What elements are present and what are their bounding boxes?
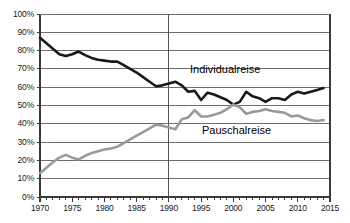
x-tick-label: 1975	[55, 203, 89, 213]
x-tick-label: 2000	[216, 203, 250, 213]
x-tick-label: 1980	[87, 203, 121, 213]
axis-ticks	[37, 14, 331, 202]
y-tick-label: 60%	[0, 82, 34, 92]
y-tick-label: 80%	[0, 45, 34, 55]
y-tick-label: 10%	[0, 173, 34, 183]
line-chart: 0%10%20%30%40%50%60%70%80%90%100% 197019…	[0, 0, 350, 223]
x-tick-label: 1990	[152, 203, 186, 213]
x-tick-label: 2010	[281, 203, 315, 213]
y-tick-label: 40%	[0, 118, 34, 128]
y-tick-label: 50%	[0, 100, 34, 110]
series-label-individualreise: Individualreise	[190, 63, 260, 75]
x-tick-label: 1995	[184, 203, 218, 213]
y-tick-label: 30%	[0, 137, 34, 147]
y-tick-label: 20%	[0, 155, 34, 165]
y-tick-label: 0%	[0, 192, 34, 202]
y-tick-label: 70%	[0, 63, 34, 73]
x-tick-label: 2015	[313, 203, 347, 213]
x-tick-label: 2005	[249, 203, 283, 213]
y-tick-label: 100%	[0, 9, 34, 19]
y-tick-label: 90%	[0, 27, 34, 37]
x-tick-label: 1985	[120, 203, 154, 213]
series-label-pauschalreise: Pauschalreise	[202, 124, 271, 136]
gridlines	[40, 14, 330, 179]
x-tick-label: 1970	[23, 203, 57, 213]
chart-canvas	[0, 0, 350, 223]
